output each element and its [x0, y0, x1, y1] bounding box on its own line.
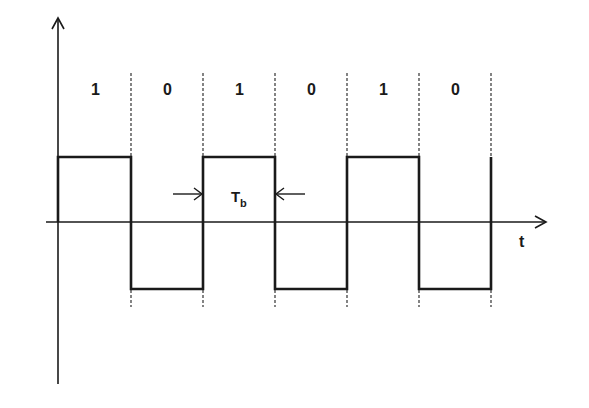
x-axis-label: t	[519, 233, 525, 250]
bit-period-annotation: T b	[173, 188, 305, 209]
bit-label: 1	[91, 81, 100, 98]
bit-label: 0	[307, 81, 316, 98]
square-waveform	[58, 157, 491, 289]
bit-boundaries	[131, 73, 491, 307]
bit-label: 1	[235, 81, 244, 98]
bit-period-subscript: b	[240, 197, 247, 209]
bit-label: 0	[451, 81, 460, 98]
x-axis: t	[46, 216, 546, 250]
bit-label: 1	[379, 81, 388, 98]
bit-waveform-diagram: t 1 0 1 0 1 0 T b	[0, 0, 589, 408]
bit-label: 0	[163, 81, 172, 98]
bit-period-label: T	[231, 188, 240, 205]
